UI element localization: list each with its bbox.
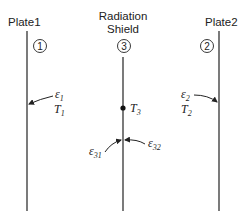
plate-1-arrow: [29, 96, 53, 104]
plate-1-emissivity: ε1: [55, 87, 64, 103]
plate-2-arrow: [194, 95, 217, 102]
shield-label-line2: Shield: [107, 23, 139, 35]
shield-number: 3: [121, 41, 127, 52]
plate-1-number: 1: [37, 41, 43, 52]
shield-right-arrow: [125, 140, 145, 144]
plate-2-emissivity: ε2: [181, 87, 190, 103]
shield-right-emissivity: ε32: [148, 136, 161, 152]
shield-left-arrow: [105, 140, 121, 152]
plate-2-number: 2: [204, 41, 210, 52]
plate-2-temperature: T2: [181, 102, 192, 118]
shield-temperature: T3: [130, 101, 141, 117]
radiation-shield: Radiation Shield 3 T3 ε31 ε32: [89, 10, 161, 211]
plate-2-label: Plate2: [205, 16, 238, 28]
plate-2: Plate2 2 ε2 T2: [181, 16, 238, 211]
plate-1: Plate1 1 ε1 T1: [8, 16, 65, 211]
shield-temperature-point: [120, 105, 125, 110]
radiation-shield-diagram: Plate1 1 ε1 T1 Radiation Shield 3 T3 ε31…: [0, 0, 245, 221]
plate-1-temperature: T1: [54, 102, 65, 118]
shield-left-emissivity: ε31: [89, 144, 102, 160]
plate-1-label: Plate1: [8, 16, 41, 28]
shield-label-line1: Radiation: [99, 10, 148, 22]
